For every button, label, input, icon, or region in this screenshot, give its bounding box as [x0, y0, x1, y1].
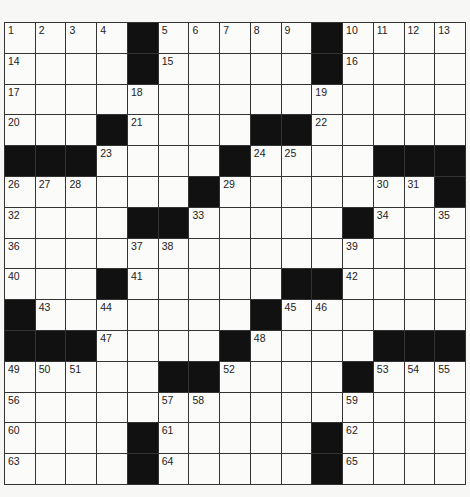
grid-cell[interactable] — [159, 146, 189, 176]
grid-cell[interactable]: 38 — [159, 239, 189, 269]
grid-cell[interactable] — [159, 115, 189, 145]
grid-cell[interactable] — [66, 85, 96, 115]
grid-cell[interactable]: 15 — [159, 54, 189, 84]
grid-cell[interactable]: 6 — [189, 23, 219, 53]
grid-cell[interactable] — [435, 300, 465, 330]
grid-cell[interactable] — [220, 239, 250, 269]
grid-cell[interactable] — [97, 362, 127, 392]
grid-cell[interactable]: 51 — [66, 362, 96, 392]
grid-cell[interactable] — [159, 331, 189, 361]
grid-cell[interactable] — [251, 208, 281, 238]
grid-cell[interactable]: 13 — [435, 23, 465, 53]
grid-cell[interactable] — [374, 393, 404, 423]
grid-cell[interactable] — [220, 54, 250, 84]
grid-cell[interactable]: 39 — [343, 239, 373, 269]
grid-cell[interactable]: 44 — [97, 300, 127, 330]
grid-cell[interactable]: 43 — [36, 300, 66, 330]
grid-cell[interactable] — [405, 85, 435, 115]
grid-cell[interactable] — [405, 300, 435, 330]
grid-cell[interactable] — [312, 393, 342, 423]
grid-cell[interactable]: 12 — [405, 23, 435, 53]
grid-cell[interactable] — [36, 239, 66, 269]
grid-cell[interactable] — [36, 393, 66, 423]
grid-cell[interactable] — [220, 454, 250, 484]
grid-cell[interactable]: 19 — [312, 85, 342, 115]
grid-cell[interactable] — [159, 177, 189, 207]
grid-cell[interactable] — [66, 54, 96, 84]
grid-cell[interactable]: 52 — [220, 362, 250, 392]
grid-cell[interactable] — [36, 85, 66, 115]
grid-cell[interactable]: 60 — [5, 423, 35, 453]
grid-cell[interactable]: 57 — [159, 393, 189, 423]
grid-cell[interactable]: 53 — [374, 362, 404, 392]
grid-cell[interactable]: 34 — [374, 208, 404, 238]
grid-cell[interactable] — [282, 423, 312, 453]
grid-cell[interactable]: 42 — [343, 269, 373, 299]
grid-cell[interactable] — [343, 146, 373, 176]
grid-cell[interactable] — [282, 85, 312, 115]
grid-cell[interactable] — [282, 208, 312, 238]
grid-cell[interactable] — [343, 300, 373, 330]
grid-cell[interactable]: 27 — [36, 177, 66, 207]
grid-cell[interactable]: 65 — [343, 454, 373, 484]
grid-cell[interactable] — [220, 115, 250, 145]
grid-cell[interactable] — [251, 269, 281, 299]
grid-cell[interactable]: 56 — [5, 393, 35, 423]
grid-cell[interactable]: 14 — [5, 54, 35, 84]
grid-cell[interactable]: 29 — [220, 177, 250, 207]
grid-cell[interactable] — [374, 239, 404, 269]
grid-cell[interactable] — [189, 239, 219, 269]
grid-cell[interactable]: 26 — [5, 177, 35, 207]
grid-cell[interactable]: 62 — [343, 423, 373, 453]
grid-cell[interactable] — [405, 239, 435, 269]
grid-cell[interactable]: 55 — [435, 362, 465, 392]
grid-cell[interactable]: 10 — [343, 23, 373, 53]
grid-cell[interactable]: 7 — [220, 23, 250, 53]
grid-cell[interactable] — [97, 85, 127, 115]
grid-cell[interactable] — [405, 454, 435, 484]
grid-cell[interactable]: 36 — [5, 239, 35, 269]
grid-cell[interactable]: 40 — [5, 269, 35, 299]
grid-cell[interactable] — [128, 393, 158, 423]
grid-cell[interactable] — [189, 54, 219, 84]
grid-cell[interactable] — [282, 393, 312, 423]
grid-cell[interactable] — [435, 269, 465, 299]
grid-cell[interactable] — [128, 177, 158, 207]
grid-cell[interactable] — [405, 208, 435, 238]
grid-cell[interactable] — [97, 423, 127, 453]
grid-cell[interactable] — [220, 208, 250, 238]
grid-cell[interactable]: 22 — [312, 115, 342, 145]
grid-cell[interactable] — [312, 208, 342, 238]
grid-cell[interactable] — [405, 269, 435, 299]
grid-cell[interactable] — [251, 54, 281, 84]
grid-cell[interactable] — [374, 454, 404, 484]
grid-cell[interactable] — [66, 115, 96, 145]
grid-cell[interactable]: 59 — [343, 393, 373, 423]
grid-cell[interactable]: 21 — [128, 115, 158, 145]
grid-cell[interactable]: 3 — [66, 23, 96, 53]
grid-cell[interactable]: 33 — [189, 208, 219, 238]
grid-cell[interactable] — [374, 54, 404, 84]
grid-cell[interactable] — [282, 177, 312, 207]
grid-cell[interactable]: 16 — [343, 54, 373, 84]
grid-cell[interactable]: 61 — [159, 423, 189, 453]
grid-cell[interactable] — [36, 454, 66, 484]
grid-cell[interactable] — [405, 423, 435, 453]
grid-cell[interactable] — [128, 300, 158, 330]
grid-cell[interactable]: 4 — [97, 23, 127, 53]
grid-cell[interactable] — [312, 146, 342, 176]
grid-cell[interactable] — [435, 239, 465, 269]
grid-cell[interactable] — [374, 269, 404, 299]
grid-cell[interactable]: 54 — [405, 362, 435, 392]
grid-cell[interactable] — [374, 115, 404, 145]
grid-cell[interactable]: 9 — [282, 23, 312, 53]
grid-cell[interactable] — [435, 115, 465, 145]
grid-cell[interactable] — [189, 269, 219, 299]
grid-cell[interactable]: 18 — [128, 85, 158, 115]
grid-cell[interactable] — [97, 454, 127, 484]
grid-cell[interactable]: 32 — [5, 208, 35, 238]
grid-cell[interactable]: 25 — [282, 146, 312, 176]
grid-cell[interactable]: 24 — [251, 146, 281, 176]
grid-cell[interactable] — [405, 115, 435, 145]
grid-cell[interactable] — [312, 177, 342, 207]
